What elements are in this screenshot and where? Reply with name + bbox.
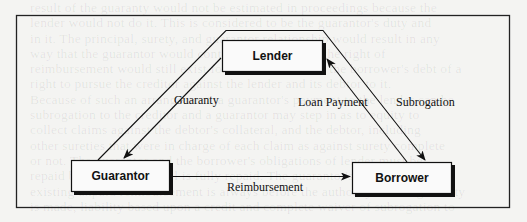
node-lender: Lender [223, 41, 327, 76]
subrogation-label: Subrogation [396, 95, 455, 109]
guaranty-label: Guaranty [174, 93, 219, 107]
node-guarantor: Guarantor [72, 161, 174, 196]
scanned-page: result of the guaranty would not be esti… [0, 0, 527, 222]
guarantor-label: Guarantor [91, 169, 149, 183]
borrower-label: Borrower [375, 171, 429, 185]
diagram-canvas: Lender Guarantor Borrower Guaranty Loan … [0, 0, 527, 222]
guaranty-edge [124, 58, 221, 158]
loan-payment-edge [327, 59, 407, 162]
loan-payment-label: Loan Payment [298, 95, 368, 109]
node-borrower: Borrower [353, 163, 456, 198]
reimbursement-label: Reimbursement [227, 180, 304, 194]
lender-label: Lender [252, 49, 292, 63]
